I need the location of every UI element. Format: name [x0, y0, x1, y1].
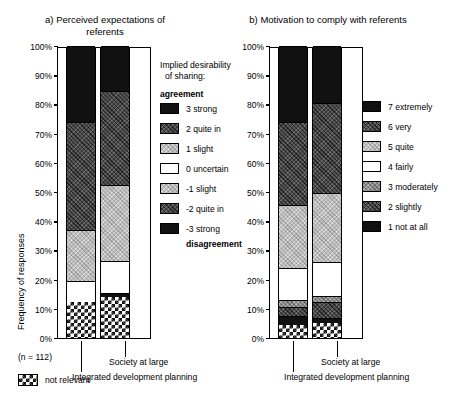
- legend-label: 3 strong: [186, 104, 217, 114]
- bar-segment: [67, 122, 95, 230]
- legend-item: 1 slight: [160, 142, 252, 155]
- y-tick-label: 0%: [230, 334, 264, 344]
- y-tick-label: 20%: [18, 276, 52, 286]
- bar-segment: [279, 46, 307, 122]
- legend-label: 1 not at all: [388, 222, 428, 232]
- legend-label: 1 slight: [186, 144, 213, 154]
- legend-a-header: Implied desirability of sharing:: [160, 60, 252, 82]
- bar-segment: [279, 307, 307, 316]
- y-tick-mark: [266, 280, 270, 281]
- bar-segment: [101, 185, 129, 261]
- not-relevant-swatch: [18, 374, 38, 386]
- legend-item: 4 fairly: [362, 160, 451, 173]
- bar-segment: [67, 46, 95, 122]
- bar-segment: [313, 103, 341, 194]
- bar-segment: [101, 91, 129, 184]
- legend-item: 3 moderately: [362, 180, 451, 193]
- caption-society-b: Society at large: [321, 357, 380, 367]
- y-tick-label: 20%: [230, 276, 264, 286]
- y-tick-label: 0%: [18, 334, 52, 344]
- panel-b-title: b) Motivation to comply with referents: [248, 14, 408, 26]
- legend-label: 2 slightly: [388, 202, 421, 212]
- legend-swatch: [362, 221, 381, 232]
- y-tick-mark: [54, 221, 58, 222]
- bar-segment: [313, 296, 341, 302]
- y-tick-label: 60%: [18, 159, 52, 169]
- bar-segment: [313, 302, 341, 318]
- bar-segment: [101, 297, 129, 338]
- stacked-bar: [278, 47, 308, 339]
- legend-label: 0 uncertain: [186, 164, 229, 174]
- legend-label: 3 moderately: [388, 182, 438, 192]
- y-tick-label: 30%: [18, 246, 52, 256]
- y-tick-label: 80%: [18, 100, 52, 110]
- not-relevant-label: not relevant: [45, 375, 90, 385]
- leader-line-society-b: [337, 341, 338, 357]
- stacked-bar: [100, 47, 130, 339]
- bar-segment: [313, 262, 341, 296]
- legend-swatch: [160, 223, 179, 234]
- legend-swatch: [160, 183, 179, 194]
- y-tick-label: 100%: [18, 42, 52, 52]
- bar-segment: [101, 46, 129, 91]
- sample-size-label: (n = 112): [18, 352, 52, 362]
- legend-a-agreement-label: agreement: [160, 89, 252, 99]
- legend-item: -3 strong: [160, 222, 252, 235]
- legend-item: 3 strong: [160, 102, 252, 115]
- leader-line-idp-a: [81, 341, 82, 372]
- stacked-bar: [66, 47, 96, 339]
- y-tick-mark: [266, 309, 270, 310]
- legend-item: 1 not at all: [362, 220, 451, 233]
- bar-segment: [279, 325, 307, 338]
- figure-canvas: a) Perceived expectations of referents b…: [0, 0, 451, 393]
- y-tick-mark: [266, 338, 270, 339]
- bar-segment: [67, 302, 95, 339]
- legend-item: 5 quite: [362, 140, 451, 153]
- y-tick-mark: [266, 250, 270, 251]
- legend-label: 6 very: [388, 122, 411, 132]
- y-tick-mark: [54, 192, 58, 193]
- legend-item: 0 uncertain: [160, 162, 252, 175]
- y-tick-mark: [54, 280, 58, 281]
- legend-label: -1 slight: [186, 184, 216, 194]
- bar-segment: [313, 318, 341, 324]
- y-tick-label: 10%: [18, 305, 52, 315]
- caption-idp-b: Integrated development planning: [284, 372, 409, 382]
- legend-panel-b: 7 extremely6 very5 quite4 fairly3 modera…: [362, 100, 451, 240]
- y-tick-mark: [54, 163, 58, 164]
- bar-segment: [279, 316, 307, 325]
- caption-idp-a: Integrated development planning: [72, 372, 197, 382]
- y-tick-mark: [54, 250, 58, 251]
- y-tick-mark: [266, 104, 270, 105]
- bar-segment: [67, 230, 95, 281]
- legend-swatch: [362, 121, 381, 132]
- legend-label: 4 fairly: [388, 162, 413, 172]
- y-tick-label: 90%: [18, 71, 52, 81]
- y-tick-label: 40%: [18, 217, 52, 227]
- y-tick-mark: [54, 46, 58, 47]
- bar-segment: [313, 46, 341, 103]
- legend-swatch: [160, 203, 179, 214]
- legend-item: 2 quite in: [160, 122, 252, 135]
- legend-item: 7 extremely: [362, 100, 451, 113]
- panel-a-title: a) Perceived expectations of referents: [30, 14, 180, 38]
- bar-segment: [279, 122, 307, 205]
- y-tick-mark: [266, 163, 270, 164]
- legend-swatch: [160, 163, 179, 174]
- bar-segment: [279, 205, 307, 268]
- legend-label: -2 quite in: [186, 204, 224, 214]
- legend-item: -2 quite in: [160, 202, 252, 215]
- legend-item: 6 very: [362, 120, 451, 133]
- legend-swatch: [362, 181, 381, 192]
- legend-swatch: [160, 123, 179, 134]
- legend-panel-a: Implied desirability of sharing: agreeme…: [160, 60, 252, 249]
- legend-label: -3 strong: [186, 224, 220, 234]
- y-tick-mark: [266, 221, 270, 222]
- y-tick-mark: [266, 75, 270, 76]
- y-tick-mark: [54, 338, 58, 339]
- legend-item: 2 slightly: [362, 200, 451, 213]
- legend-swatch: [362, 141, 381, 152]
- legend-label: 2 quite in: [186, 124, 221, 134]
- bar-segment: [101, 293, 129, 297]
- y-tick-label: 50%: [18, 188, 52, 198]
